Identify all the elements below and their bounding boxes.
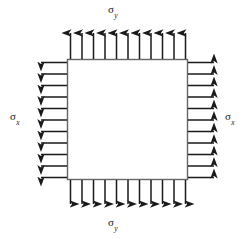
left-arrow-group [41, 63, 67, 178]
sigma-subscript: x [16, 118, 19, 127]
sigma-subscript: x [231, 118, 234, 127]
sigma-x-left-label: σx [10, 111, 19, 125]
stress-diagram-canvas [0, 0, 252, 239]
stress-element-square [68, 60, 188, 180]
right-arrow-group [188, 63, 214, 178]
sigma-x-right-label: σx [225, 111, 234, 125]
sigma-y-top-label: σy [108, 4, 117, 18]
bottom-arrow-group [71, 180, 186, 204]
sigma-subscript: y [114, 224, 117, 233]
top-arrow-group [71, 33, 186, 59]
sigma-y-bottom-label: σy [108, 217, 117, 231]
sigma-subscript: y [114, 11, 117, 20]
stress-element-figure: σy σy σx σx [0, 0, 252, 239]
